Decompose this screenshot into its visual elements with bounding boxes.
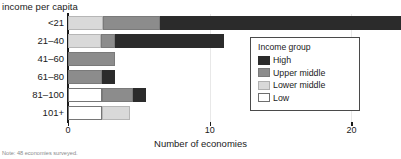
category-label: 41–60 [0,52,64,66]
category-label: 81–100 [0,88,64,102]
category-label: 61–80 [0,70,64,84]
bar-segment-lower [102,106,130,120]
bar-row: <21 [68,16,401,30]
bar-segment-upper [68,52,115,66]
x-axis-tick-label: 20 [346,125,356,135]
bar-segment-lower [68,34,101,48]
legend-item-lower[interactable]: Lower middle [258,79,359,92]
legend-item-upper[interactable]: Upper middle [258,67,359,80]
legend-item-high[interactable]: High [258,54,359,67]
legend-swatch-lower [258,81,270,90]
x-axis-tick-label: 10 [205,125,215,135]
legend-label: High [273,55,291,65]
bar-segment-lower [68,16,103,30]
category-label: <21 [0,16,64,30]
bar-segment-high [115,34,224,48]
bar-segment-upper [68,70,102,84]
bar-segment-high [160,16,401,30]
bar-segment-upper [102,88,133,102]
legend-swatch-low [258,93,270,102]
bar-segment-low [68,88,102,102]
legend-items: HighUpper middleLower middleLow [258,54,359,104]
bar-segment-upper [101,34,115,48]
legend: Income group HighUpper middleLower middl… [250,37,360,111]
category-label: 21–40 [0,34,64,48]
legend-swatch-upper [258,68,270,77]
legend-label: Low [273,93,289,103]
bar-segment-high [133,88,146,102]
x-axis-title: Number of economies [0,138,401,149]
stacked-bar-chart: income per capita <2121–4041–6061–8081–1… [0,0,401,159]
bar-segment-high [102,70,115,84]
legend-title: Income group [258,42,359,52]
bar-segment-upper [103,16,160,30]
legend-label: Lower middle [273,80,325,90]
category-label: 101+ [0,106,64,120]
legend-item-low[interactable]: Low [258,92,359,105]
x-axis-tick-label: 0 [65,125,70,135]
chart-title: income per capita [2,1,78,12]
chart-footnote: Note: 48 economies surveyed. [2,150,78,156]
legend-label: Upper middle [273,68,325,78]
bar-segment-low [68,106,102,120]
legend-swatch-high [258,56,270,65]
